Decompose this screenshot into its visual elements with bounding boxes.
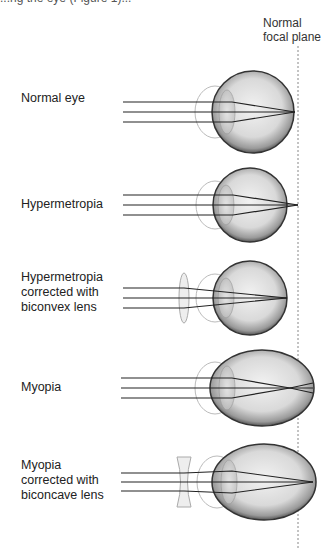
- hypermetropia-corrected-eye: [123, 261, 287, 335]
- myopia-corrected-eye: [121, 444, 316, 520]
- hypermetropia-eye: [123, 168, 298, 242]
- myopia-eye: [121, 350, 314, 426]
- eye-diagram: [0, 0, 334, 552]
- normal-eye: [123, 71, 295, 153]
